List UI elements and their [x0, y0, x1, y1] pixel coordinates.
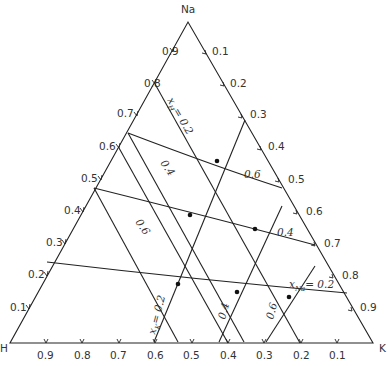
- right-axis-ticks: 0.1 0.2 0.3 0.4 0.5 0.6 0.7 0.8 0.9: [212, 45, 377, 313]
- xH-06-label: 0.6: [133, 216, 153, 237]
- svg-text:0.6: 0.6: [99, 140, 116, 152]
- svg-text:0.7: 0.7: [110, 349, 127, 361]
- svg-text:0.8: 0.8: [74, 349, 91, 361]
- svg-text:0.5: 0.5: [81, 172, 98, 184]
- svg-text:0.5: 0.5: [288, 173, 305, 185]
- xK-label: xK= 0.2: [145, 293, 170, 336]
- triangle-outline: [10, 22, 373, 343]
- svg-text:0.9: 0.9: [162, 45, 179, 57]
- svg-text:0.7: 0.7: [324, 237, 341, 249]
- xH-label: xH= 0.2: [163, 95, 197, 138]
- xNa-04-label: 0.4: [277, 226, 294, 238]
- svg-text:0.8: 0.8: [144, 77, 161, 89]
- svg-text:0.4: 0.4: [268, 140, 285, 152]
- svg-text:0.6: 0.6: [147, 349, 164, 361]
- xH-04-label: 0.4: [158, 157, 177, 178]
- ternary-diagram: Na H K 0.9 0.8 0.7 0.6 0.5 0.4 0.3 0.2 0…: [0, 0, 388, 366]
- vertex-k: K: [379, 342, 387, 354]
- svg-text:0.2: 0.2: [230, 77, 247, 89]
- xNa-06-label: 0.6: [244, 168, 261, 180]
- svg-text:0.6: 0.6: [306, 205, 323, 217]
- svg-text:0.4: 0.4: [64, 204, 81, 216]
- svg-text:0.9: 0.9: [37, 349, 54, 361]
- svg-text:xK= 0.2: xK= 0.2: [145, 293, 170, 336]
- tick-marks: [26, 47, 352, 343]
- svg-text:0.1: 0.1: [329, 349, 346, 361]
- svg-text:0.3: 0.3: [256, 349, 273, 361]
- svg-text:0.7: 0.7: [117, 107, 134, 119]
- xNa-curves: [47, 133, 347, 293]
- vertex-na: Na: [181, 3, 195, 15]
- bottom-axis-ticks: 0.9 0.8 0.7 0.6 0.5 0.4 0.3 0.2 0.1: [37, 349, 346, 361]
- svg-text:0.4: 0.4: [220, 349, 237, 361]
- svg-text:0.5: 0.5: [183, 349, 200, 361]
- svg-text:xH= 0.2: xH= 0.2: [163, 95, 197, 138]
- svg-text:0.2: 0.2: [28, 268, 45, 280]
- xK-04-label: 0.4: [215, 301, 231, 320]
- vertex-h: H: [0, 342, 8, 354]
- svg-text:0.1: 0.1: [212, 45, 229, 57]
- svg-text:0.1: 0.1: [10, 301, 27, 313]
- svg-text:0.9: 0.9: [360, 301, 377, 313]
- svg-text:0.2: 0.2: [293, 349, 310, 361]
- svg-text:0.3: 0.3: [250, 108, 267, 120]
- svg-text:0.8: 0.8: [342, 269, 359, 281]
- xK-06-label: 0.6: [263, 301, 279, 321]
- composition-lines: [219, 206, 315, 342]
- svg-text:0.3: 0.3: [46, 236, 63, 248]
